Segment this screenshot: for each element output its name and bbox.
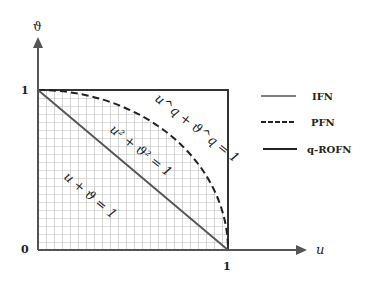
legend-ifn-label: IFN bbox=[312, 91, 333, 102]
x-axis-arrow-icon bbox=[296, 245, 307, 255]
legend: IFN PFN q-ROFN bbox=[261, 91, 351, 155]
tick-x-1: 1 bbox=[223, 260, 231, 273]
legend-qrofn-label: q-ROFN bbox=[307, 144, 351, 155]
x-axis-label: u bbox=[316, 242, 324, 257]
y-axis-arrow-icon bbox=[33, 37, 43, 48]
tick-y-1: 1 bbox=[21, 84, 29, 97]
y-axis-label: ϑ bbox=[33, 20, 42, 34]
tick-origin: 0 bbox=[21, 243, 29, 256]
legend-pfn-label: PFN bbox=[311, 117, 335, 128]
diagram-canvas: ϑ u 1 0 1 u^q + ϑ^q = 1 u² + ϑ² = 1 u + … bbox=[0, 0, 387, 287]
